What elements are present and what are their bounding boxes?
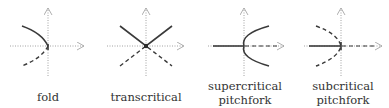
fold-label: fold — [18, 90, 78, 104]
transcritical-label: transcritical — [106, 90, 186, 104]
fold-stable-branch — [22, 26, 48, 46]
subcritical-diagram — [304, 8, 382, 76]
fold-unstable-branch — [22, 46, 48, 66]
fold-diagram — [10, 8, 84, 76]
transcritical-diagram — [107, 8, 184, 76]
subcritical-label: subcritical pitchfork — [303, 79, 383, 107]
supercritical-diagram — [208, 8, 284, 76]
supercritical-label: supercritical pitchfork — [204, 79, 286, 107]
